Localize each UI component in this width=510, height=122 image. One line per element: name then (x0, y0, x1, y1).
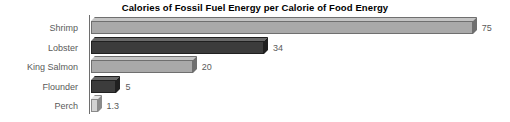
bar-lobster[interactable] (91, 37, 264, 54)
bar-row: Shrimp75 (0, 17, 510, 34)
bar-front-face (91, 21, 473, 34)
plot-area: Shrimp75Lobster34King Salmon20Flounder5P… (0, 14, 510, 122)
bar-row: Lobster34 (0, 37, 510, 54)
bar-top-face (91, 37, 268, 41)
bar-front-face (91, 41, 264, 54)
value-label-shrimp: 75 (482, 23, 492, 33)
category-label-lobster: Lobster (0, 43, 78, 53)
bar-row: Perch1.3 (0, 95, 510, 112)
bar-perch[interactable] (91, 95, 98, 112)
bar-side-face (116, 76, 120, 93)
bar-side-face (264, 37, 268, 54)
bar-front-face (91, 99, 98, 112)
bar-side-face (193, 56, 197, 73)
chart-title: Calories of Fossil Fuel Energy per Calor… (0, 2, 510, 13)
value-label-lobster: 34 (273, 43, 283, 53)
value-label-king-salmon: 20 (202, 62, 212, 72)
bar-row: Flounder5 (0, 76, 510, 93)
category-label-shrimp: Shrimp (0, 23, 78, 33)
value-label-perch: 1.3 (107, 101, 120, 111)
bar-flounder[interactable] (91, 76, 116, 93)
bar-side-face (98, 95, 102, 112)
bar-front-face (91, 80, 116, 93)
bar-king-salmon[interactable] (91, 56, 193, 73)
category-label-flounder: Flounder (0, 82, 78, 92)
bar-chart: Calories of Fossil Fuel Energy per Calor… (0, 0, 510, 122)
bar-top-face (91, 17, 477, 21)
bar-front-face (91, 60, 193, 73)
bar-shrimp[interactable] (91, 17, 473, 34)
bar-row: King Salmon20 (0, 56, 510, 73)
category-label-king-salmon: King Salmon (0, 62, 78, 72)
value-label-flounder: 5 (125, 82, 130, 92)
category-label-perch: Perch (0, 101, 78, 111)
bar-top-face (91, 56, 197, 60)
bar-side-face (473, 17, 477, 34)
